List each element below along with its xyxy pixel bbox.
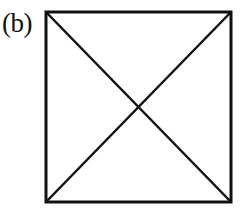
- square-with-diagonals-diagram: [0, 0, 250, 217]
